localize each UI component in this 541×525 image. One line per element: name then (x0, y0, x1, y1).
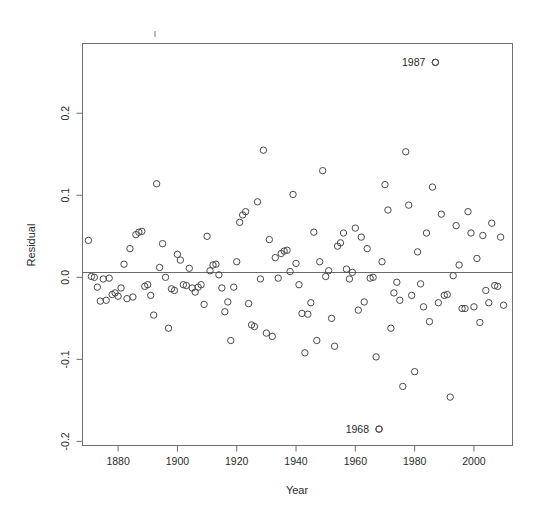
y-tick-label-0.1: 0.1 (60, 188, 72, 203)
x-tick-label-1920: 1920 (225, 455, 249, 467)
x-tick-label-1960: 1960 (344, 455, 368, 467)
x-tick-label-2000: 2000 (462, 455, 486, 467)
stray-artifact-mark (154, 31, 156, 37)
annotation-label-1968: 1968 (346, 423, 370, 435)
annotation-label-1987: 1987 (402, 56, 426, 68)
y-tick-label-0.0: 0.0 (60, 270, 72, 285)
x-tick-label-1900: 1900 (166, 455, 190, 467)
x-axis-label: Year (286, 484, 309, 496)
y-tick-label-0.2: 0.2 (60, 106, 72, 121)
x-tick-label-1940: 1940 (284, 455, 308, 467)
x-tick-label-1980: 1980 (403, 455, 427, 467)
residual-scatter-plot: 1880190019201940196019802000 0.20.10.0-0… (0, 0, 541, 525)
figure-panel: 1880190019201940196019802000 0.20.10.0-0… (0, 0, 541, 525)
y-axis-label: Residual (25, 224, 37, 267)
y-tick-label--0.1: -0.1 (60, 350, 72, 368)
y-tick-label--0.2: -0.2 (60, 432, 72, 450)
figure-background (0, 0, 541, 525)
x-tick-label-1880: 1880 (106, 455, 130, 467)
